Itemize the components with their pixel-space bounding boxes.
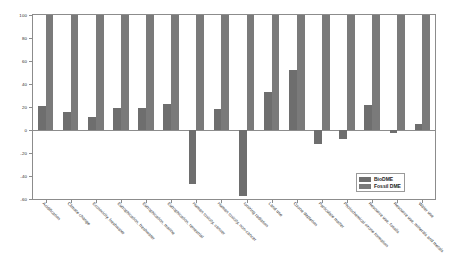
y-tick-label: -40 — [20, 174, 27, 179]
legend-swatch-fossildme — [359, 184, 371, 189]
legend-item-fossildme: Fossil DME — [359, 183, 401, 189]
bar-fossildme — [397, 15, 405, 130]
y-tick — [29, 38, 33, 39]
y-tick — [29, 130, 33, 131]
y-tick — [29, 61, 33, 62]
bar-biodme — [38, 106, 46, 130]
y-tick — [29, 107, 33, 108]
bar-fossildme — [196, 15, 204, 130]
y-tick-label: 0 — [24, 128, 27, 133]
legend-label-fossildme: Fossil DME — [374, 183, 401, 189]
zero-baseline — [33, 130, 435, 131]
bar-biodme — [239, 130, 247, 196]
y-tick — [29, 15, 33, 16]
y-tick — [29, 199, 33, 200]
bar-fossildme — [372, 15, 380, 130]
x-axis-labels: AcidificationClimate changeEcotoxicity, … — [32, 201, 436, 274]
y-tick — [29, 84, 33, 85]
x-axis-label: Water use — [418, 201, 436, 219]
x-axis-label: Land use — [267, 201, 283, 217]
y-tick — [29, 176, 33, 177]
y-tick-label: 100 — [19, 13, 27, 18]
bar-fossildme — [146, 15, 154, 130]
x-axis-label: Photochemical ozone formation — [343, 201, 390, 248]
bar-biodme — [339, 130, 347, 139]
bar-biodme — [214, 109, 222, 130]
y-tick-label: 20 — [22, 105, 27, 110]
bar-fossildme — [46, 15, 54, 130]
x-axis-label: Acidification — [41, 201, 61, 221]
x-axis-label: Ozone depletion — [292, 201, 318, 227]
legend-label-biodme: BioDME — [374, 176, 393, 182]
bar-biodme — [113, 108, 121, 130]
bar-biodme — [314, 130, 322, 144]
bar-fossildme — [322, 15, 330, 130]
bar-biodme — [289, 70, 297, 130]
bar-biodme — [415, 124, 423, 130]
bar-fossildme — [272, 15, 280, 130]
y-tick-label: -20 — [20, 151, 27, 156]
bar-fossildme — [247, 15, 255, 130]
bar-biodme — [390, 130, 398, 133]
x-axis-label: Particulate matter — [317, 201, 345, 229]
y-tick-label: 80 — [22, 36, 27, 41]
chart-legend: BioDME Fossil DME — [356, 173, 405, 192]
bar-biodme — [364, 105, 372, 130]
bar-fossildme — [96, 15, 104, 130]
legend-swatch-biodme — [359, 177, 371, 182]
x-axis-label: Climate change — [66, 201, 91, 226]
bar-fossildme — [71, 15, 79, 130]
legend-item-biodme: BioDME — [359, 176, 401, 182]
bar-biodme — [264, 92, 272, 130]
x-axis-label: Ionizing radiation — [242, 201, 269, 228]
bar-fossildme — [121, 15, 129, 130]
bar-fossildme — [297, 15, 305, 130]
y-tick-label: -60 — [20, 197, 27, 202]
chart-container: -60-40-20020406080100 AcidificationClima… — [0, 0, 450, 274]
bar-biodme — [189, 130, 197, 184]
y-tick-label: 60 — [22, 59, 27, 64]
bar-biodme — [63, 112, 71, 130]
x-axis-label: Resource use, minerals and metals — [393, 201, 445, 253]
bar-fossildme — [171, 15, 179, 130]
y-tick-label: 40 — [22, 82, 27, 87]
bar-biodme — [138, 108, 146, 130]
bar-fossildme — [347, 15, 355, 130]
bar-fossildme — [422, 15, 430, 130]
bar-biodme — [163, 104, 171, 130]
bar-fossildme — [221, 15, 229, 130]
bar-biodme — [88, 117, 96, 130]
y-tick — [29, 153, 33, 154]
